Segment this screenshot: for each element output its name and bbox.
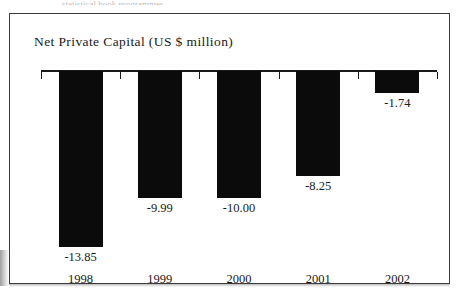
bar-group[interactable]: -13.85	[59, 70, 103, 266]
axis-tick	[199, 72, 200, 79]
bar[interactable]	[217, 71, 261, 198]
scan-left-edge-smudge	[0, 250, 9, 286]
bar-group[interactable]: -1.74	[375, 70, 419, 266]
bar[interactable]	[296, 71, 340, 176]
bar[interactable]	[138, 71, 182, 198]
bar[interactable]	[59, 71, 103, 247]
bar-group[interactable]: -8.25	[296, 70, 340, 266]
figure-frame: Net Private Capital (US $ million) -13.8…	[9, 13, 450, 284]
scan-bottom-edge-shadow	[9, 284, 450, 287]
bar-value-label: -8.25	[305, 179, 331, 194]
axis-tick	[279, 72, 280, 79]
axis-tick	[41, 72, 42, 79]
plot-area: -13.85-9.99-10.00-8.25-1.74	[41, 70, 437, 266]
chart-title: Net Private Capital (US $ million)	[34, 34, 233, 50]
category-axis: 19981999200020012002	[41, 272, 437, 290]
bar-group[interactable]: -9.99	[138, 70, 182, 266]
bar-group[interactable]: -10.00	[217, 70, 261, 266]
bar-value-label: -9.99	[147, 201, 173, 216]
bar[interactable]	[375, 71, 419, 93]
bar-value-label: -1.74	[384, 96, 410, 111]
bar-value-label: -10.00	[223, 201, 255, 216]
axis-tick	[120, 72, 121, 79]
axis-tick	[358, 72, 359, 79]
scan-top-text-sliver: statistical book programmes	[62, 0, 232, 5]
bar-value-label: -13.85	[64, 250, 96, 265]
axis-tick	[437, 72, 438, 79]
